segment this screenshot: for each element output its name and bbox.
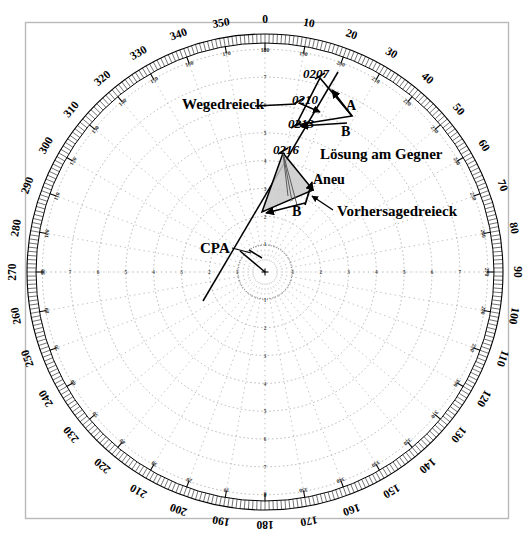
compass-outer-label: 350 bbox=[211, 15, 230, 30]
compass-tick bbox=[336, 490, 339, 499]
compass-tick bbox=[490, 227, 499, 229]
compass-tick bbox=[365, 58, 369, 66]
compass-outer-label: 240 bbox=[36, 388, 55, 409]
graticule-spoke bbox=[273, 281, 411, 445]
compass-tick bbox=[347, 486, 350, 494]
compass-tick bbox=[33, 218, 42, 220]
radar-plot-figure: 1111222233334444555566667777888801801019… bbox=[0, 0, 531, 541]
compass-tick bbox=[211, 495, 213, 504]
compass-tick bbox=[459, 146, 467, 151]
compass-tick bbox=[37, 202, 46, 205]
compass-inner-label: 350 bbox=[299, 487, 309, 494]
compass-tick bbox=[324, 42, 326, 51]
compass-tick bbox=[418, 442, 424, 449]
graticule-spoke bbox=[226, 49, 263, 260]
graticule-spoke bbox=[274, 280, 438, 418]
compass-tick bbox=[396, 77, 401, 84]
compass-tick bbox=[430, 431, 436, 437]
compass-tick bbox=[305, 498, 307, 507]
compass-tick bbox=[351, 51, 354, 59]
range-ring-label: 1 bbox=[264, 297, 267, 303]
compass-tick bbox=[68, 400, 75, 405]
compass-tick bbox=[484, 202, 493, 205]
compass-tick bbox=[46, 179, 54, 183]
compass-tick bbox=[232, 499, 233, 508]
compass-tick bbox=[313, 39, 315, 48]
compass-tick bbox=[301, 498, 302, 507]
compass-tick bbox=[88, 113, 95, 119]
compass-inner-label: 70 bbox=[53, 344, 61, 351]
compass-tick bbox=[386, 70, 391, 78]
compass-tick bbox=[463, 387, 471, 392]
compass-tick bbox=[390, 464, 395, 472]
compass-tick bbox=[240, 500, 241, 509]
compass-tick bbox=[459, 393, 467, 398]
graticule-spoke bbox=[188, 283, 261, 484]
compass-tick bbox=[467, 160, 475, 164]
compass-tick bbox=[72, 407, 79, 412]
compass-tick bbox=[188, 489, 191, 498]
compass-tick bbox=[493, 247, 502, 248]
compass-tick bbox=[132, 462, 137, 469]
compass-tick bbox=[40, 195, 49, 198]
compass-tick bbox=[455, 400, 462, 405]
compass-inner-label: 80 bbox=[43, 307, 50, 314]
radar-canvas: 1111222233334444555566667777888801801019… bbox=[0, 0, 531, 541]
compass-tick bbox=[57, 157, 65, 161]
compass-tick bbox=[91, 110, 98, 116]
compass-tick bbox=[396, 460, 401, 467]
compass-tick bbox=[61, 390, 69, 395]
graticule-spoke bbox=[69, 278, 254, 385]
compass-tick bbox=[317, 495, 319, 504]
compass-tick bbox=[91, 428, 98, 434]
compass-tick bbox=[157, 476, 161, 484]
compass-tick bbox=[400, 79, 405, 86]
graticule-spoke bbox=[277, 233, 488, 270]
compass-tick bbox=[491, 235, 500, 236]
compass-tick bbox=[31, 231, 40, 233]
compass-tick bbox=[332, 491, 335, 500]
compass-tick bbox=[492, 243, 501, 244]
compass-inner-label: 260 bbox=[480, 229, 487, 239]
compass-tick bbox=[125, 457, 130, 464]
range-ring-label: 5 bbox=[403, 269, 406, 275]
compass-inner-label: 130 bbox=[90, 124, 100, 134]
compass-inner-label: 190 bbox=[299, 50, 309, 57]
compass-tick bbox=[491, 312, 500, 314]
compass-tick bbox=[28, 296, 37, 297]
compass-tick bbox=[150, 64, 154, 72]
compass-tick bbox=[376, 472, 380, 480]
compass-tick bbox=[40, 347, 49, 350]
compass-tick bbox=[418, 95, 424, 102]
compass-tick bbox=[135, 464, 140, 472]
compass-tick bbox=[285, 500, 286, 509]
compass-tick bbox=[421, 439, 427, 446]
compass-tick bbox=[106, 442, 112, 449]
compass-tick bbox=[373, 474, 377, 482]
compass-tick bbox=[293, 499, 294, 508]
compass-tick bbox=[365, 478, 369, 486]
compass-tick bbox=[340, 489, 343, 498]
compass-tick bbox=[483, 343, 492, 346]
compass-tick bbox=[37, 339, 46, 342]
compass-outer-label: 30 bbox=[384, 45, 400, 61]
compass-tick bbox=[112, 447, 118, 454]
compass-tick bbox=[443, 122, 450, 128]
compass-tick bbox=[415, 92, 421, 99]
compass-tick bbox=[453, 403, 460, 408]
compass-tick bbox=[386, 466, 391, 474]
range-ring-label: 3 bbox=[180, 269, 183, 275]
compass-tick bbox=[465, 157, 473, 161]
compass-tick bbox=[85, 116, 92, 122]
compass-tick bbox=[32, 223, 41, 225]
compass-tick bbox=[63, 393, 71, 398]
compass-tick bbox=[493, 288, 502, 289]
compass-inner-label: 300 bbox=[452, 378, 461, 388]
compass-inner-label: 200 bbox=[336, 59, 346, 68]
compass-tick bbox=[150, 472, 154, 480]
compass-tick bbox=[34, 327, 43, 329]
compass-tick bbox=[115, 450, 121, 457]
compass-tick bbox=[35, 331, 44, 333]
range-ring-label: 6 bbox=[431, 269, 434, 275]
compass-tick bbox=[490, 316, 499, 318]
